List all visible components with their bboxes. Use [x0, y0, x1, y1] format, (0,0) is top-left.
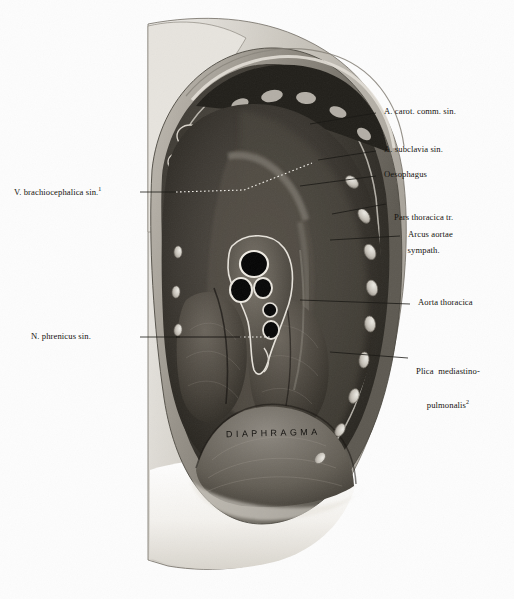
- label-aorta-thoracica: Aorta thoracica: [418, 297, 473, 308]
- label-pars-thoracica-line2: sympath.: [394, 245, 453, 256]
- label-pars-thoracica-line1: Pars thoracica tr.: [394, 212, 453, 223]
- label-n-phrenicus-sin: N. phrenicus sin.: [31, 331, 91, 342]
- label-plica-line2: pulmonalis2: [416, 399, 480, 411]
- label-plica-line1: Plica mediastino-: [416, 366, 480, 377]
- label-plica-mediastino-pulmonalis: Plica mediastino- pulmonalis2: [416, 345, 480, 432]
- label-plica-footnote: 2: [466, 399, 469, 405]
- label-plica-line2-text: pulmonalis: [427, 400, 466, 410]
- label-oesophagus: Oesophagus: [384, 169, 427, 180]
- label-a-subclavia-sin: A. subclavia sin.: [384, 144, 443, 155]
- label-v-brachiocephalica-text: V. brachiocephalica sin.: [14, 187, 98, 197]
- label-arcus-aortae: Arcus aortae: [408, 229, 453, 240]
- label-v-brachiocephalica-sin: V. brachiocephalica sin.1: [14, 186, 101, 198]
- anatomical-plate: DIAPHRAGMA A. carot. comm. sin. A. subcl…: [0, 0, 514, 599]
- label-v-brachiocephalica-footnote: 1: [98, 186, 101, 192]
- label-a-carot-comm-sin: A. carot. comm. sin.: [384, 106, 456, 117]
